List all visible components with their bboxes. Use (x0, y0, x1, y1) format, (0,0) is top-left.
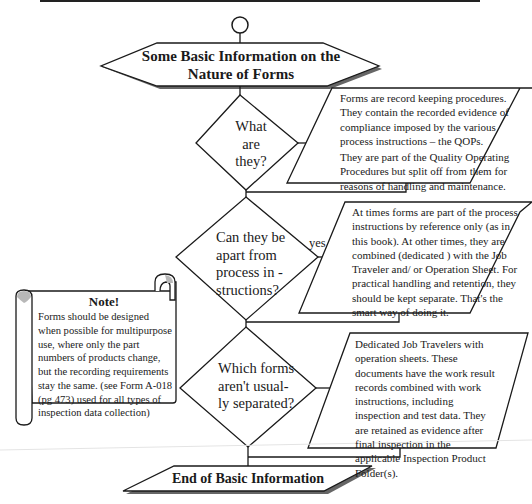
question-2-line: process in - (216, 264, 298, 282)
answer-2-text: At times forms are part of the process i… (352, 205, 520, 319)
question-2-line: structions? (216, 282, 298, 300)
answer-1-text: Forms are record keeping procedures. The… (340, 91, 520, 193)
answer-2-para1: At times forms are part of the process i… (352, 205, 520, 319)
question-3-line: ly separated? (218, 395, 298, 413)
answer-3-para1: Dedicated Job Travelers with operation s… (355, 337, 495, 480)
question-3-line: Which forms (218, 360, 298, 378)
answer-1-para2: They are part of the Quality Operating P… (340, 150, 520, 193)
question-1-line: What (234, 118, 268, 136)
question-3-text: Which forms aren't usual- ly separated? (218, 360, 298, 413)
question-1-line: they? (234, 153, 268, 171)
header-title-line1: Some Basic Information on the (128, 47, 354, 65)
question-3-line: aren't usual- (218, 378, 298, 396)
question-2-line: Can they be (216, 229, 298, 247)
note-text: Forms should be designed when possible f… (38, 310, 174, 420)
answer-1-para1: Forms are record keeping procedures. The… (340, 91, 520, 148)
question-1-line: are (234, 136, 268, 154)
start-circle (232, 17, 248, 33)
question-2-line: apart from (216, 247, 298, 265)
header-title-line2: Nature of Forms (128, 65, 354, 83)
question-2-text: Can they be apart from process in - stru… (216, 229, 298, 300)
note-title: Note! (36, 294, 172, 310)
edge-label-yes: yes (309, 236, 326, 251)
header-title: Some Basic Information on the Nature of … (128, 47, 354, 84)
end-label: End of Basic Information (148, 470, 348, 487)
question-1-text: What are they? (234, 118, 268, 171)
answer-3-text: Dedicated Job Travelers with operation s… (355, 337, 495, 480)
